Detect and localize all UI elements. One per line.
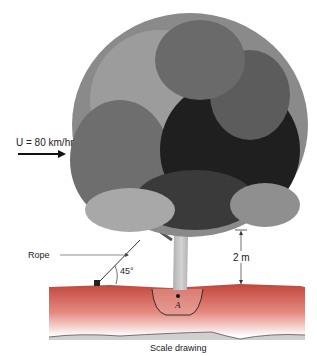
wind-speed-label: U = 80 km/hr bbox=[16, 137, 74, 148]
wind-arrow bbox=[18, 150, 66, 158]
angle-label: 45° bbox=[120, 266, 134, 276]
point-a-label: A bbox=[175, 300, 181, 310]
rope bbox=[60, 240, 140, 286]
tree-canopy bbox=[70, 13, 308, 237]
height-label: 2 m bbox=[233, 252, 250, 263]
tree-diagram bbox=[0, 0, 317, 356]
rope-label: Rope bbox=[28, 250, 50, 260]
point-a-marker bbox=[176, 294, 180, 298]
caption: Scale drawing bbox=[150, 343, 207, 353]
